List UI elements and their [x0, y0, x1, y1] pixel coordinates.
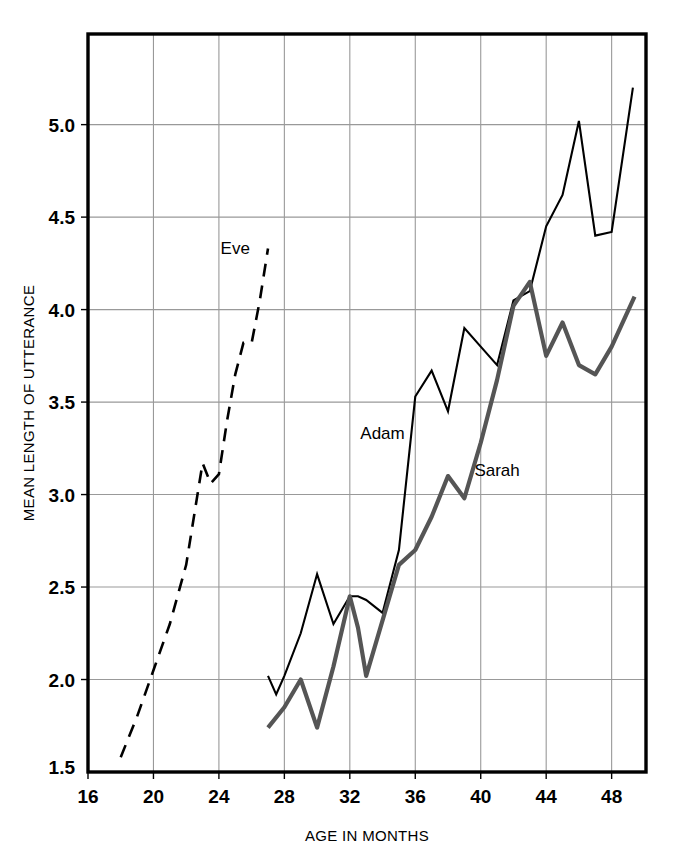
x-axis-title: AGE IN MONTHS — [305, 827, 429, 844]
y-tick-label: 3.0 — [49, 485, 75, 506]
y-tick-label: 4.0 — [49, 300, 75, 321]
y-tick-label: 2.0 — [49, 670, 75, 691]
axis-tick-labels: 1620242832364044482.02.53.03.54.04.55.01… — [49, 115, 623, 807]
series-label-adam: Adam — [360, 424, 404, 443]
series-labels: EveAdamSarah — [221, 239, 520, 480]
x-tick-label: 16 — [77, 786, 98, 807]
grid-lines — [88, 34, 646, 772]
series-label-sarah: Sarah — [474, 461, 519, 480]
series-line-adam — [268, 88, 633, 695]
y-tick-label: 2.5 — [49, 577, 76, 598]
y-axis-min-label: 1.5 — [49, 757, 76, 778]
x-tick-label: 20 — [143, 786, 164, 807]
series-line-eve — [121, 249, 268, 758]
x-tick-label: 40 — [470, 786, 491, 807]
y-tick-label: 4.5 — [49, 207, 76, 228]
x-tick-label: 44 — [536, 786, 558, 807]
x-tick-label: 24 — [208, 786, 230, 807]
x-tick-label: 28 — [274, 786, 295, 807]
y-axis-title: MEAN LENGTH OF UTTERANCE — [20, 285, 37, 521]
series-label-eve: Eve — [221, 239, 250, 258]
y-tick-label: 5.0 — [49, 115, 75, 136]
chart-figure: EveAdamSarah 1620242832364044482.02.53.0… — [0, 0, 677, 861]
data-series — [121, 88, 635, 758]
y-tick-label: 3.5 — [49, 392, 76, 413]
x-tick-label: 48 — [601, 786, 622, 807]
tick-marks — [81, 125, 612, 779]
plot-frame — [88, 34, 646, 772]
series-line-sarah — [268, 282, 635, 728]
line-chart: EveAdamSarah 1620242832364044482.02.53.0… — [0, 0, 677, 861]
x-tick-label: 36 — [405, 786, 426, 807]
x-tick-label: 32 — [339, 786, 360, 807]
plot-border — [88, 34, 646, 772]
axis-titles: AGE IN MONTHSMEAN LENGTH OF UTTERANCE — [20, 285, 429, 844]
